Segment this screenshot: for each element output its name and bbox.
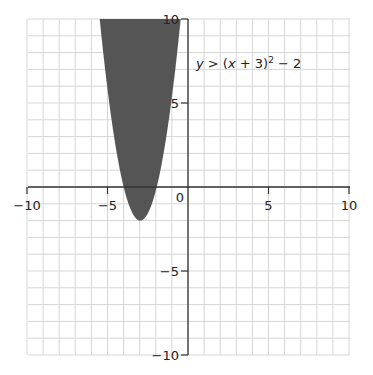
x-tick-label: −5 <box>98 198 117 213</box>
y-tick-label: −5 <box>160 264 179 279</box>
x-tick-label: 10 <box>341 198 358 213</box>
shaded-region <box>100 19 181 221</box>
y-tick-label: −10 <box>152 348 179 363</box>
y-tick-label: 5 <box>171 96 179 111</box>
inequality-label: y > (x + 3)2 − 2 <box>195 55 301 71</box>
origin-label: 0 <box>176 190 184 205</box>
x-tick-label: −10 <box>13 198 40 213</box>
x-tick-label: 5 <box>264 198 272 213</box>
y-tick-label: 10 <box>162 12 179 27</box>
inequality-graph: −10−55100−10−5510 y > (x + 3)2 − 2 <box>0 0 373 375</box>
